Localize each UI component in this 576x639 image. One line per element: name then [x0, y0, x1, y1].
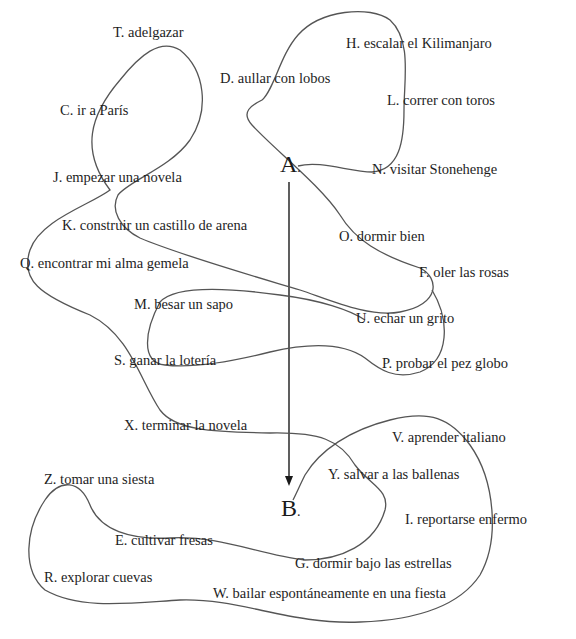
item-i: I. reportarse enfermo — [405, 512, 527, 527]
item-j: J. empezar una novela — [53, 170, 182, 185]
item-y: Y. salvar a las ballenas — [328, 467, 459, 482]
item-q: Q. encontrar mi alma gemela — [20, 256, 189, 271]
start-point-a: A. — [280, 152, 301, 176]
item-m: M. besar un sapo — [134, 297, 233, 312]
start-label: A — [280, 151, 297, 177]
item-h: H. escalar el Kilimanjaro — [346, 36, 492, 51]
item-c: C. ir a París — [60, 103, 128, 118]
item-r: R. explorar cuevas — [44, 570, 152, 585]
start-suffix: . — [297, 160, 301, 175]
diagram-canvas: A. B. T. adelgazar H. escalar el Kiliman… — [0, 0, 576, 639]
item-g: G. dormir bajo las estrellas — [295, 556, 452, 571]
end-label: B — [281, 495, 297, 521]
item-e: E. cultivar fresas — [115, 533, 213, 548]
item-v: V. aprender italiano — [392, 430, 506, 445]
item-n: N. visitar Stonehenge — [372, 162, 497, 177]
item-w: W. bailar espontáneamente en una fiesta — [213, 586, 446, 601]
item-s: S. ganar la lotería — [114, 353, 216, 368]
item-z: Z. tomar una siesta — [44, 472, 154, 487]
item-o: O. dormir bien — [339, 229, 425, 244]
item-d: D. aullar con lobos — [220, 71, 330, 86]
item-t: T. adelgazar — [113, 25, 184, 40]
end-point-b: B. — [281, 496, 301, 520]
item-l: L. correr con toros — [387, 93, 495, 108]
arrowhead-icon — [285, 476, 293, 486]
item-x: X. terminar la novela — [124, 418, 247, 433]
item-f: F. oler las rosas — [419, 265, 509, 280]
item-u: U. echar un grito — [356, 311, 454, 326]
item-k: K. construir un castillo de arena — [62, 218, 247, 233]
end-suffix: . — [297, 504, 301, 519]
item-p: P. probar el pez globo — [382, 356, 508, 371]
